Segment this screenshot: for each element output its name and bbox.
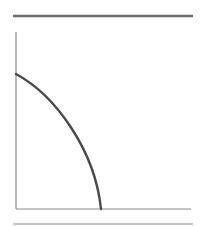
diagram-canvas bbox=[0, 0, 204, 226]
concave-curve bbox=[16, 74, 101, 209]
diagram-svg bbox=[0, 0, 204, 226]
